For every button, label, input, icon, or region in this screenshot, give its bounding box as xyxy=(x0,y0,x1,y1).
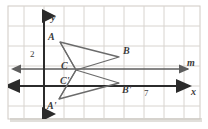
vertex-label-a-prime: A' xyxy=(46,100,57,111)
tick-label-7: 7 xyxy=(144,88,149,98)
vertex-label-b: B xyxy=(122,45,130,56)
figure-container: y x m 2 7 A B C A' B' C' xyxy=(0,0,208,129)
vertex-label-c-prime: C' xyxy=(60,75,70,86)
axis-label-y: y xyxy=(50,12,56,23)
vertex-label-b-prime: B' xyxy=(121,84,132,95)
tick-label-2: 2 xyxy=(30,49,35,59)
vertex-label-a: A xyxy=(47,31,55,42)
axis-label-x: x xyxy=(190,86,196,97)
geometry-figure: y x m 2 7 A B C A' B' C' xyxy=(0,0,208,129)
panel-shadow xyxy=(10,118,202,122)
vertex-label-c: C xyxy=(61,60,68,71)
line-label-m: m xyxy=(187,57,195,68)
